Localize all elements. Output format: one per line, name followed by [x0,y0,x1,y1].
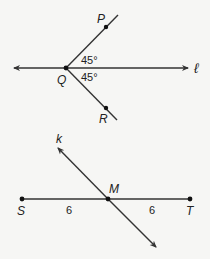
length-mt: 6 [149,204,155,216]
label-q: Q [57,73,66,87]
label-m: M [109,182,119,196]
point-r [104,106,108,110]
angle-lower: 45° [81,71,98,83]
point-m [106,197,111,202]
label-s: S [17,204,25,218]
label-l: ℓ [193,60,199,76]
length-sm: 6 [66,204,72,216]
point-s [20,197,25,202]
label-t: T [186,204,195,218]
label-k: k [56,132,63,146]
line-k-upper [58,148,108,199]
bisector-figure: k S T M 6 6 [17,132,195,247]
geometry-diagram: P Q R ℓ 45° 45° k S T M 6 6 [0,0,210,259]
point-t [188,197,193,202]
label-r: R [99,112,108,126]
label-p: P [97,12,105,26]
point-q [64,66,69,71]
angle-upper: 45° [81,54,98,66]
angle-figure: P Q R ℓ 45° 45° [14,12,199,126]
